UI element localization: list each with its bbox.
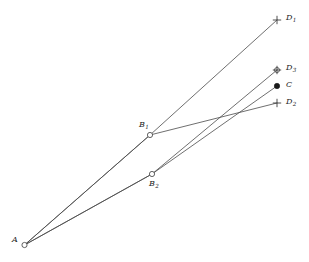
ray-path-a-b2-d3 (25, 70, 278, 245)
point-label-c-text: C (286, 80, 292, 89)
point-label-d2-sub: 2 (293, 101, 297, 107)
point-label-d3-sub: 3 (293, 67, 297, 73)
point-marker-b1 (147, 132, 152, 137)
point-label-d3-text: D (286, 63, 293, 72)
point-label-d2-text: D (286, 97, 293, 106)
point-label-b1: B1 (139, 121, 149, 129)
point-label-d1-text: D (286, 13, 293, 22)
point-label-c: C (286, 81, 292, 89)
point-label-d1: D1 (286, 14, 296, 22)
point-label-b2: B2 (149, 180, 159, 188)
point-label-b1-sub: 1 (145, 124, 149, 130)
point-marker-c (274, 83, 279, 88)
point-marker-a (22, 242, 27, 247)
point-label-d3: D3 (286, 64, 296, 72)
point-marker-b2 (149, 171, 154, 176)
figure-canvas: A B1 B2 D1 D3 C D2 (0, 0, 309, 262)
point-label-d2: D2 (286, 98, 296, 106)
point-label-b2-sub: 2 (155, 183, 159, 189)
diagram-svg (0, 0, 309, 262)
ray-path-a-b2-c (25, 86, 278, 245)
point-label-a-text: A (12, 235, 18, 244)
point-label-d1-sub: 1 (293, 17, 297, 23)
point-label-a: A (12, 236, 18, 244)
point-marker-d2 (273, 99, 281, 107)
